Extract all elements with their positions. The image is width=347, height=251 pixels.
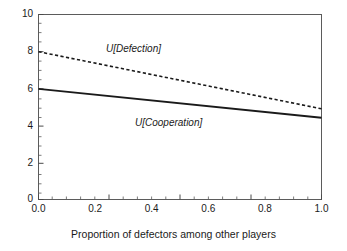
series-label-cooperation: U[Cooperation]: [135, 117, 202, 128]
series-label-defection: U[Defection]: [106, 43, 161, 54]
x-tick-label-0-4: 0.4: [132, 203, 172, 214]
x-tick-label-0-8: 0.8: [245, 203, 285, 214]
x-tick-label-0-0: 0.0: [19, 203, 59, 214]
x-axis-title: Proportion of defectors among other play…: [0, 228, 347, 240]
x-tick-label-0-2: 0.2: [75, 203, 115, 214]
x-tick-label-0-6: 0.6: [188, 203, 228, 214]
x-tick-label-1-0: 1.0: [302, 203, 342, 214]
chart-figure: 10 8 6 4 2 0 0.00.20.40.60.81.0 Proporti…: [0, 0, 347, 251]
